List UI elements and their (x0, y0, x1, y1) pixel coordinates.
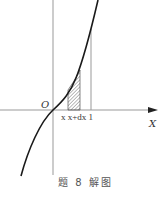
tick-labels: x x+dx 1 (61, 113, 93, 122)
figure-caption: 题 8 解图 (58, 178, 113, 188)
function-curve (21, 0, 98, 176)
origin-label: O (41, 100, 49, 110)
x-axis-label: X (149, 119, 156, 129)
x-axis-arrow-icon (148, 107, 158, 113)
diagram-canvas (0, 0, 166, 202)
